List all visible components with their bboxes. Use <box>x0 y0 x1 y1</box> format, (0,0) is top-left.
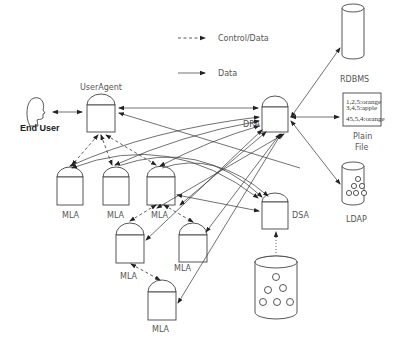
person-head-icon <box>27 98 45 126</box>
user-agent-node: UserAgent <box>80 83 122 132</box>
mla-node-6: MLA <box>148 280 176 334</box>
dsa-node: DSA <box>262 193 309 229</box>
file-line-3: 45,5,4:orange <box>346 115 385 123</box>
plain-file-label-2: File <box>355 143 368 152</box>
legend-data: Data <box>178 69 237 78</box>
end-user-label: End User <box>20 123 60 133</box>
mla-node-4: MLA <box>116 223 144 281</box>
legend-data-label: Data <box>218 69 237 78</box>
mla-label: MLA <box>120 272 138 281</box>
mla-label: MLA <box>62 211 80 220</box>
legend-control-data: Control/Data <box>178 34 269 43</box>
dra-node: DRA <box>243 96 288 132</box>
plain-file-label-1: Plain <box>353 132 372 141</box>
rdbms-database: RDBMS <box>340 4 369 84</box>
legend: Control/Data Data <box>178 34 269 78</box>
ldap-label: LDAP <box>346 215 367 224</box>
mla-label: MLA <box>152 325 170 334</box>
user-agent-label: UserAgent <box>80 83 122 92</box>
mla-label: MLA <box>174 264 192 273</box>
mla-node-2: MLA <box>103 167 129 220</box>
rdbms-label: RDBMS <box>340 75 369 84</box>
mla-label: MLA <box>107 211 125 220</box>
mla-node-3: MLA <box>147 166 175 220</box>
dsa-directory-store <box>255 256 297 319</box>
end-user: End User <box>20 98 60 133</box>
architecture-diagram: Control/Data Data End User UserAgent DRA… <box>0 0 408 342</box>
plain-file: 1,2,5:orange 3,4,5:apple 45,5,4:orange P… <box>343 93 385 152</box>
mla-node-5: MLA <box>174 223 207 273</box>
mla-node-1: MLA <box>57 167 83 220</box>
file-line-2: 3,4,5:apple <box>346 104 377 112</box>
mla-label: MLA <box>151 211 169 220</box>
ldap-directory: LDAP <box>342 162 367 224</box>
dsa-label: DSA <box>292 211 309 220</box>
legend-control-data-label: Control/Data <box>218 34 269 43</box>
